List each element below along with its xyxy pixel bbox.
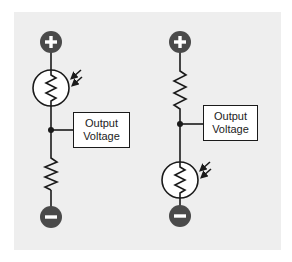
left-circuit (51, 43, 73, 218)
plus-terminal-icon (40, 31, 62, 53)
ldr-icon (33, 70, 82, 106)
output-label-line1: Output (214, 110, 247, 123)
light-arrow-icon (73, 70, 81, 77)
minus-terminal-icon (40, 206, 62, 228)
ldr-icon (162, 162, 211, 198)
light-arrow-icon (203, 169, 211, 176)
junction-dot (48, 127, 54, 133)
light-arrow-icon (202, 162, 210, 169)
plus-terminal-icon (169, 31, 191, 53)
resistor-icon (45, 155, 57, 190)
output-label-line2: Voltage (212, 123, 249, 136)
minus-terminal-icon (169, 205, 191, 227)
output-voltage-label-right: Output Voltage (203, 105, 258, 141)
light-arrow-icon (74, 77, 82, 84)
output-label-line1: Output (85, 117, 118, 130)
output-label-line2: Voltage (83, 130, 120, 143)
output-voltage-label-left: Output Voltage (73, 112, 130, 148)
junction-dot (177, 121, 183, 127)
resistor-icon (174, 68, 186, 112)
